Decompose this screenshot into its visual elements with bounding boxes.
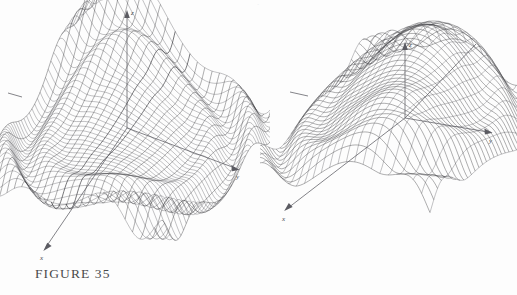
- figure-35-y-axis-label: y: [235, 173, 240, 181]
- figure-36-surface-plot: z y x: [260, 0, 517, 262]
- scanned-textbook-page: . z y x FIGURE 35: [0, 0, 517, 295]
- figure-36-x-axis-label: x: [281, 215, 286, 223]
- figure-35-z-axis-label: z: [130, 9, 134, 17]
- figure-36: z y x FIGURE 36: [260, 0, 517, 295]
- figure-35-caption: FIGURE 35: [35, 266, 111, 282]
- figure-35-x-axis-label: x: [39, 254, 44, 262]
- figure-35-surface-plot: z y x: [0, 0, 270, 262]
- figure-36-mesh: [260, 21, 517, 213]
- figure-36-y-axis-label: y: [488, 137, 493, 145]
- figure-35: z y x FIGURE 35: [0, 0, 270, 295]
- figure-36-z-axis-label: z: [408, 41, 412, 49]
- figure-35-mesh: [0, 0, 270, 240]
